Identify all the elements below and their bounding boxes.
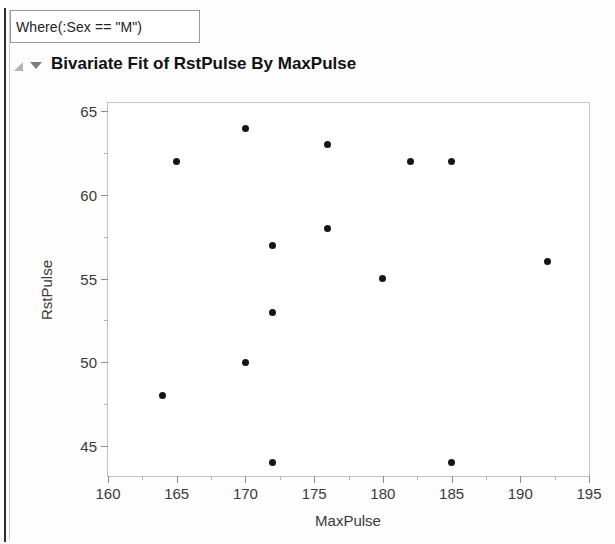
y-axis-title: RstPulse (38, 260, 55, 320)
data-point[interactable] (448, 158, 455, 165)
x-axis-tick (245, 476, 246, 483)
data-point[interactable] (269, 459, 276, 466)
x-axis-tick (108, 476, 109, 483)
where-filter-box[interactable]: Where(:Sex == "M") (10, 10, 200, 43)
report-window: Where(:Sex == "M") Bivariate Fit of RstP… (0, 0, 615, 544)
y-axis-minor-tick (104, 153, 108, 154)
page-title: Bivariate Fit of RstPulse By MaxPulse (51, 54, 356, 74)
x-axis-minor-tick (142, 476, 143, 480)
x-axis-tick-label: 190 (508, 485, 533, 502)
data-point[interactable] (159, 392, 166, 399)
report-title-row: Bivariate Fit of RstPulse By MaxPulse (14, 52, 356, 76)
report-inner-rail (9, 10, 10, 540)
data-point[interactable] (269, 309, 276, 316)
data-point[interactable] (242, 125, 249, 132)
data-point[interactable] (269, 242, 276, 249)
x-axis-title: MaxPulse (315, 512, 381, 529)
x-axis-tick-label: 185 (439, 485, 464, 502)
x-axis-minor-tick (211, 476, 212, 480)
data-point[interactable] (173, 158, 180, 165)
scatter-chart: 4550556065160165170175180185190195 RstPu… (0, 0, 615, 544)
data-point[interactable] (324, 141, 331, 148)
triangle-open-icon[interactable] (14, 62, 23, 71)
data-point[interactable] (242, 359, 249, 366)
y-axis-minor-tick (104, 404, 108, 405)
x-axis-tick-label: 160 (95, 485, 120, 502)
data-point[interactable] (324, 225, 331, 232)
x-axis-tick (314, 476, 315, 483)
x-axis-tick (520, 476, 521, 483)
x-axis-tick-label: 165 (164, 485, 189, 502)
x-axis-tick (589, 476, 590, 483)
report-left-rail (4, 8, 6, 542)
where-filter-text: Where(:Sex == "M") (16, 19, 142, 35)
data-point[interactable] (544, 258, 551, 265)
y-axis-minor-tick (104, 320, 108, 321)
x-axis-tick (383, 476, 384, 483)
y-axis-tick-label: 65 (80, 103, 97, 120)
plot-frame[interactable]: 4550556065160165170175180185190195 (107, 102, 590, 477)
data-point[interactable] (407, 158, 414, 165)
x-axis-tick-label: 170 (233, 485, 258, 502)
x-axis-tick-label: 195 (576, 485, 601, 502)
y-axis-tick-label: 55 (80, 270, 97, 287)
y-axis-minor-tick (104, 237, 108, 238)
y-axis-tick-label: 50 (80, 354, 97, 371)
y-axis-tick-label: 60 (80, 186, 97, 203)
triangle-down-icon[interactable] (30, 62, 42, 69)
x-axis-tick (177, 476, 178, 483)
x-axis-tick-label: 180 (370, 485, 395, 502)
y-axis-tick (101, 111, 108, 112)
y-axis-tick-label: 45 (80, 437, 97, 454)
x-axis-tick (452, 476, 453, 483)
y-axis-tick (101, 279, 108, 280)
data-point[interactable] (379, 275, 386, 282)
x-axis-minor-tick (280, 476, 281, 480)
y-axis-tick (101, 446, 108, 447)
x-axis-minor-tick (417, 476, 418, 480)
data-point[interactable] (448, 459, 455, 466)
y-axis-tick (101, 195, 108, 196)
x-axis-minor-tick (349, 476, 350, 480)
x-axis-minor-tick (486, 476, 487, 480)
x-axis-minor-tick (555, 476, 556, 480)
y-axis-tick (101, 362, 108, 363)
x-axis-tick-label: 175 (302, 485, 327, 502)
